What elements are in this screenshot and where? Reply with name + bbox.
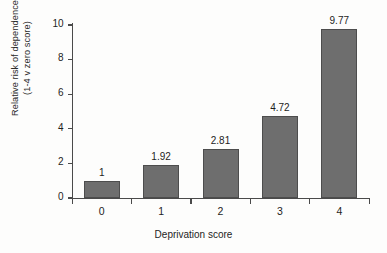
x-tick-label-1: 1 <box>158 205 164 217</box>
x-tick-boundary-0 <box>72 199 73 204</box>
y-tick-label-10: 10 <box>52 18 63 29</box>
x-tick-label-2: 2 <box>218 205 224 217</box>
bar-3: 4.72 <box>262 116 298 198</box>
y-tick-label-4: 4 <box>58 122 64 133</box>
x-tick-label-0: 0 <box>99 205 105 217</box>
x-axis-title: Deprivation score <box>0 229 387 240</box>
y-tick-8: 8 <box>68 59 73 60</box>
x-tick-boundary-5 <box>369 199 370 204</box>
y-axis-line <box>72 23 73 198</box>
y-tick-label-6: 6 <box>58 87 64 98</box>
y-tick-4: 4 <box>68 128 73 129</box>
plot-area: 0 2 4 6 8 10 1 1.92 2.81 <box>72 25 370 198</box>
y-axis-title-line-2: (1-4 v zero score) <box>22 0 34 138</box>
y-axis-title: Relative risk of dependence (1-4 v zero … <box>10 0 50 138</box>
bar-0: 1 <box>84 181 120 198</box>
x-tick-boundary-1 <box>131 199 132 204</box>
bar-value-3: 4.72 <box>270 102 289 113</box>
bar-value-4: 9.77 <box>330 15 349 26</box>
y-tick-10: 10 <box>68 24 73 25</box>
y-tick-2: 2 <box>68 163 73 164</box>
bar-4: 9.77 <box>321 29 357 198</box>
y-tick-6: 6 <box>68 94 73 95</box>
bar-chart-figure: Relative risk of dependence (1-4 v zero … <box>0 0 387 253</box>
bar-2: 2.81 <box>203 149 239 198</box>
y-tick-label-8: 8 <box>58 52 64 63</box>
bar-1: 1.92 <box>143 165 179 198</box>
x-tick-boundary-4 <box>309 199 310 204</box>
bar-value-0: 1 <box>99 167 105 178</box>
x-tick-boundary-2 <box>190 199 191 204</box>
x-axis-line <box>68 198 370 199</box>
bar-value-2: 2.81 <box>211 135 230 146</box>
y-tick-label-0: 0 <box>58 191 64 202</box>
y-axis-title-line-1: Relative risk of dependence <box>10 0 22 138</box>
x-tick-boundary-3 <box>250 199 251 204</box>
bar-value-1: 1.92 <box>151 151 170 162</box>
x-tick-label-3: 3 <box>277 205 283 217</box>
y-tick-label-2: 2 <box>58 156 64 167</box>
x-tick-label-4: 4 <box>336 205 342 217</box>
